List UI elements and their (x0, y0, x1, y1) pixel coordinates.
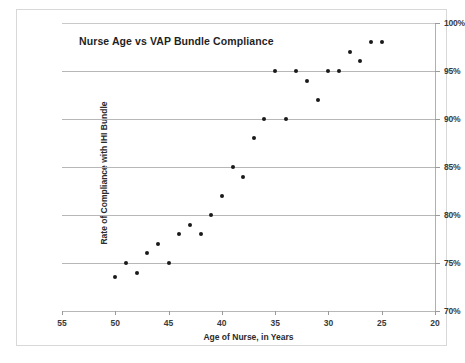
data-point (167, 261, 171, 265)
data-point (273, 69, 277, 73)
x-axis-tick (115, 311, 116, 315)
x-axis-tick-label: 55 (57, 318, 66, 328)
data-point (337, 69, 341, 73)
data-point (220, 194, 224, 198)
y-axis-tick-label: 80% (444, 210, 460, 220)
y-axis-tick-label: 85% (444, 162, 460, 172)
data-point (188, 223, 192, 227)
chart-frame: Nurse Age vs VAP Bundle Compliance Rate … (16, 9, 447, 346)
x-axis-tick (169, 311, 170, 315)
data-point (262, 117, 266, 121)
data-point (305, 79, 309, 83)
x-axis-tick-label: 50 (111, 318, 120, 328)
x-axis-tick (435, 311, 436, 315)
y-axis-tick (435, 23, 440, 24)
data-point (326, 69, 330, 73)
data-point (316, 98, 320, 102)
data-point (156, 242, 160, 246)
plot-area (62, 23, 435, 311)
data-point (145, 251, 149, 255)
data-point (380, 40, 384, 44)
y-axis-tick-label: 100% (444, 18, 465, 28)
data-point (284, 117, 288, 121)
data-point (135, 271, 139, 275)
x-axis-tick (62, 311, 63, 315)
data-point (177, 232, 181, 236)
y-axis-tick (435, 167, 440, 168)
x-axis-title: Age of Nurse, in Years (62, 332, 435, 342)
data-point (348, 50, 352, 54)
data-point (252, 136, 256, 140)
y-axis-tick (435, 71, 440, 72)
y-axis-tick-label: 75% (444, 258, 460, 268)
x-axis-tick-label: 35 (270, 318, 279, 328)
x-axis-tick-label: 45 (164, 318, 173, 328)
data-point (209, 213, 213, 217)
data-point (113, 275, 117, 279)
x-axis-tick-label: 40 (217, 318, 226, 328)
data-point (294, 69, 298, 73)
x-axis-tick (275, 311, 276, 315)
x-axis-tick-label: 20 (430, 318, 439, 328)
y-axis-tick-label: 90% (444, 114, 460, 124)
data-point (369, 40, 373, 44)
x-axis-tick (328, 311, 329, 315)
y-axis-tick (435, 215, 440, 216)
x-axis-tick-label: 30 (324, 318, 333, 328)
x-axis-tick-label: 25 (377, 318, 386, 328)
y-axis-tick-label: 95% (444, 66, 460, 76)
data-point (241, 175, 245, 179)
x-axis-line (62, 311, 436, 312)
data-point (124, 261, 128, 265)
y-axis-tick (435, 119, 440, 120)
data-point (199, 232, 203, 236)
data-point (231, 165, 235, 169)
data-point (358, 59, 362, 63)
y-axis-tick (435, 263, 440, 264)
x-axis-tick (382, 311, 383, 315)
y-axis-tick-label: 70% (444, 306, 460, 316)
x-axis-tick (222, 311, 223, 315)
